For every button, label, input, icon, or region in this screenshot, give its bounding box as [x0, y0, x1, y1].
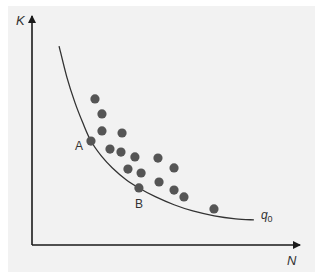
isoquant-label: q0: [261, 208, 273, 224]
data-point: [169, 163, 178, 172]
data-point: [209, 204, 218, 213]
data-point: [130, 152, 139, 161]
data-point: [97, 126, 106, 135]
point-a: [86, 136, 95, 145]
data-point: [116, 147, 125, 156]
y-axis-label: K: [16, 13, 26, 28]
isoquant-chart: K N q0 AB: [0, 0, 325, 280]
point-label-a: A: [75, 139, 83, 153]
point-label-b: B: [135, 197, 143, 211]
point-b: [134, 183, 143, 192]
data-point: [136, 168, 145, 177]
data-point: [117, 128, 126, 137]
data-point: [123, 165, 132, 174]
data-point: [105, 144, 114, 153]
data-point: [97, 109, 106, 118]
data-point: [179, 192, 188, 201]
data-point: [90, 94, 99, 103]
isoquant-label-subscript: 0: [268, 214, 273, 224]
isoquant-curve-q0: [59, 46, 254, 220]
data-point: [169, 185, 178, 194]
data-point: [153, 153, 162, 162]
x-axis-label: N: [287, 253, 297, 268]
data-point: [154, 177, 163, 186]
